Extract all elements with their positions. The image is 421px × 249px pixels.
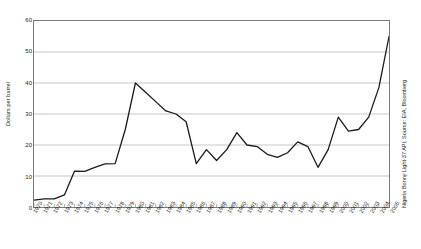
source-annotation: Nigeria Bonny Light-37 API, Source: EIA,…	[393, 0, 421, 249]
source-annotation-text: Nigeria Bonny Light-37 API, Source: EIA,…	[401, 80, 407, 208]
y-tick-label: 20	[18, 142, 32, 148]
price-line-series	[34, 37, 389, 201]
y-tick-label: 30	[18, 111, 32, 117]
gridlines	[34, 52, 389, 176]
y-tick-label: 60	[18, 17, 32, 23]
x-axis-tick-labels: 1970197119721973197419751976197719781979…	[33, 208, 390, 249]
y-tick-label: 50	[18, 48, 32, 54]
y-axis-title-text: Dollars per barrel	[5, 82, 11, 126]
plot-area	[33, 20, 390, 208]
y-tick-label: 0	[18, 205, 32, 211]
plot-svg	[34, 21, 389, 207]
oil-price-line-chart: Dollars per barrel 6050403020100 1970197…	[0, 0, 421, 249]
y-axis-tick-labels: 6050403020100	[14, 0, 32, 249]
y-tick-label: 40	[18, 80, 32, 86]
y-tick-label: 10	[18, 174, 32, 180]
